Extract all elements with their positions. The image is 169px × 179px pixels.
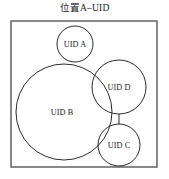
node-label-uid-a: UID A (64, 40, 87, 49)
node-label-uid-b: UID B (51, 108, 74, 117)
node-label-uid-d: UID D (107, 83, 130, 92)
node-label-uid-c: UID C (108, 141, 131, 150)
diagram-canvas: UID A UID B UID D UID C (0, 0, 169, 179)
uid-location-diagram: 位置A–UID UID A UID B UID D UID C (0, 0, 169, 179)
